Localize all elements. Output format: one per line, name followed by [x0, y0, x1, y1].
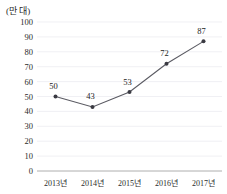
- y-tick-label: 20: [25, 136, 34, 146]
- gridlines-group: [37, 22, 222, 156]
- series-line: [56, 41, 204, 107]
- x-tick-label: 2017년: [192, 178, 215, 188]
- y-tick-label: 50: [25, 92, 34, 102]
- data-point-label: 50: [49, 81, 58, 91]
- y-tick-label: 70: [25, 62, 34, 72]
- chart-canvas: 100 90 80 70 60 50 40 30 20 10 0 50 43 5…: [0, 0, 227, 194]
- x-tick-label: 2015년: [118, 178, 141, 188]
- data-point-label: 72: [160, 48, 169, 58]
- x-axis-tick-labels: 2013년 2014년 2015년 2016년 2017년: [44, 178, 215, 188]
- data-point-marker: [128, 90, 132, 94]
- y-tick-label: 0: [29, 166, 33, 176]
- data-point-marker: [202, 39, 206, 43]
- y-tick-label: 100: [20, 17, 33, 27]
- y-tick-label: 80: [25, 47, 34, 57]
- data-point-label: 43: [86, 91, 95, 101]
- data-point-marker: [165, 62, 169, 66]
- y-tick-label: 90: [25, 32, 34, 42]
- y-axis-tick-labels: 100 90 80 70 60 50 40 30 20 10 0: [20, 17, 33, 176]
- y-tick-label: 60: [25, 77, 34, 87]
- data-point-label: 87: [197, 26, 206, 36]
- y-tick-label: 30: [25, 121, 34, 131]
- y-tick-label: 40: [25, 106, 34, 116]
- line-chart: (만 대) 100 90 80 70 60 50 40 30 20 10: [0, 0, 227, 194]
- x-tick-label: 2013년: [44, 178, 67, 188]
- x-tick-label: 2016년: [155, 178, 178, 188]
- series-markers-group: [54, 39, 206, 109]
- x-tick-label: 2014년: [81, 178, 104, 188]
- data-point-marker: [91, 105, 95, 109]
- data-point-label: 53: [123, 77, 132, 87]
- data-point-marker: [54, 95, 58, 99]
- y-tick-label: 10: [25, 151, 34, 161]
